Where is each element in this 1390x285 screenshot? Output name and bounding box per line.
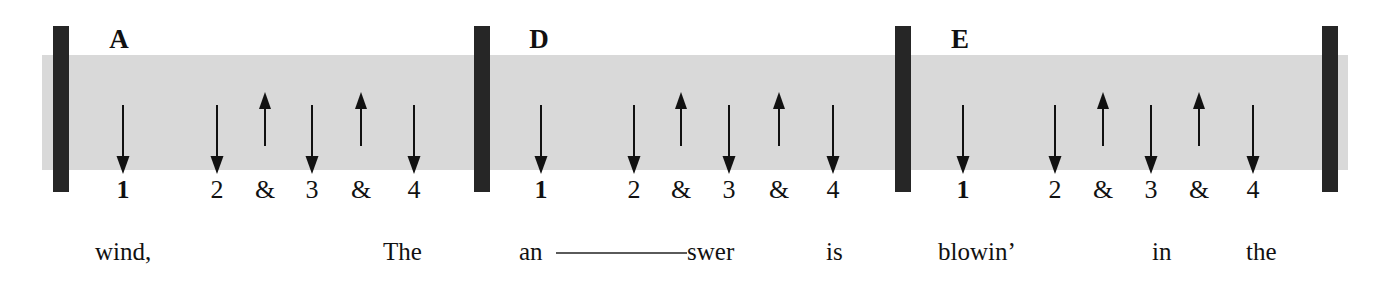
strum-pattern-chart: A12&3&4wind,TheD12&3&4answerisE12&3&4blo…: [0, 0, 1390, 285]
lyric-syllable: wind,: [95, 239, 151, 264]
beat-count-1: 1: [117, 177, 130, 203]
beat-count-2: 2: [211, 177, 224, 203]
downstrum-arrow-icon: [305, 105, 320, 174]
upstrum-arrow-icon: [674, 92, 688, 146]
beat-count-and: &: [1093, 177, 1113, 203]
upstrum-arrow-icon: [354, 92, 368, 146]
downstrum-arrow-icon: [956, 105, 971, 174]
upstrum-arrow-icon: [1192, 92, 1206, 146]
beat-count-1: 1: [535, 177, 548, 203]
downstrum-arrow-icon: [1144, 105, 1159, 174]
upstrum-arrow-icon: [1096, 92, 1110, 146]
beat-count-and: &: [671, 177, 691, 203]
downstrum-arrow-icon: [407, 105, 422, 174]
lyric-syllable: the: [1246, 239, 1277, 264]
chord-label-d: D: [529, 26, 549, 53]
lyric-syllable: blowin’: [938, 239, 1016, 264]
downstrum-arrow-icon: [1246, 105, 1261, 174]
barline-3: [895, 26, 911, 192]
barline-2: [474, 26, 490, 192]
beat-count-4: 4: [1247, 177, 1260, 203]
beat-count-3: 3: [1145, 177, 1158, 203]
lyric-syllable: swer: [687, 239, 734, 264]
beat-count-and: &: [769, 177, 789, 203]
lyric-syllable: an: [519, 239, 543, 264]
beat-count-2: 2: [1049, 177, 1062, 203]
beat-count-1: 1: [957, 177, 970, 203]
upstrum-arrow-icon: [772, 92, 786, 146]
upstrum-arrow-icon: [258, 92, 272, 146]
beat-count-3: 3: [723, 177, 736, 203]
barline-1: [53, 26, 69, 192]
syllable-extender-line: [556, 252, 687, 254]
lyric-syllable: is: [826, 239, 843, 264]
beat-count-and: &: [1189, 177, 1209, 203]
downstrum-arrow-icon: [627, 105, 642, 174]
downstrum-arrow-icon: [534, 105, 549, 174]
beat-count-and: &: [351, 177, 371, 203]
downstrum-arrow-icon: [722, 105, 737, 174]
barline-4: [1322, 26, 1338, 192]
chord-label-a: A: [109, 26, 129, 53]
downstrum-arrow-icon: [116, 105, 131, 174]
lyric-syllable: in: [1152, 239, 1171, 264]
beat-count-4: 4: [408, 177, 421, 203]
beat-count-4: 4: [827, 177, 840, 203]
beat-count-3: 3: [306, 177, 319, 203]
downstrum-arrow-icon: [210, 105, 225, 174]
lyric-syllable: The: [383, 239, 422, 264]
beat-count-2: 2: [628, 177, 641, 203]
chord-label-e: E: [951, 26, 969, 53]
beat-count-and: &: [255, 177, 275, 203]
downstrum-arrow-icon: [826, 105, 841, 174]
downstrum-arrow-icon: [1048, 105, 1063, 174]
